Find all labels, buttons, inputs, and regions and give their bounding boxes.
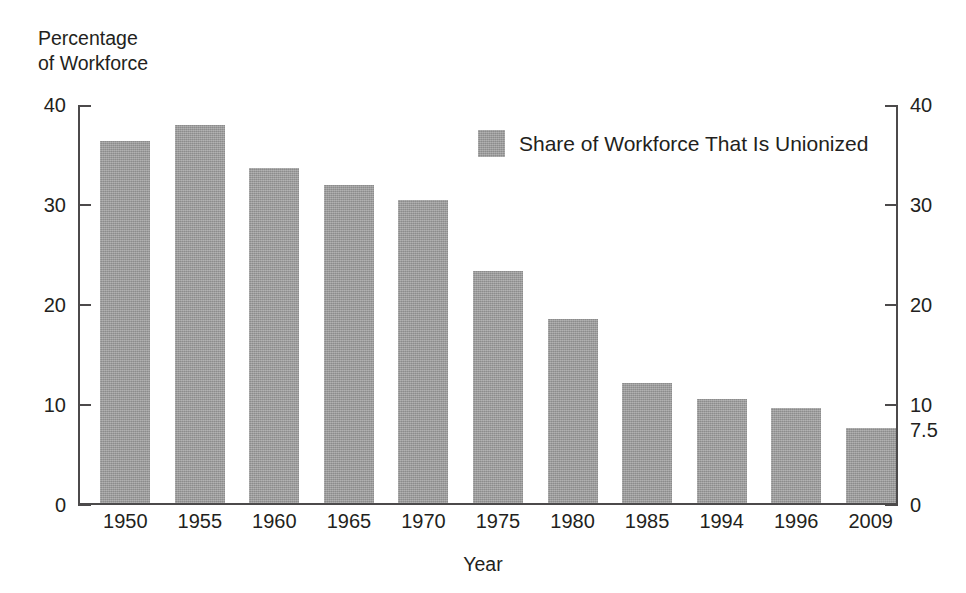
plot-area: 01020304007.5102030401950195519601965197…: [78, 105, 898, 505]
y-axis-title-line-2: of Workforce: [38, 51, 148, 76]
y-tick-label-right-20: 20: [910, 295, 932, 315]
y-axis-title-line-1: Percentage: [38, 26, 148, 51]
y-tick-label-left-0: 0: [55, 495, 66, 515]
x-tick-label-1980: 1980: [548, 511, 598, 531]
x-tick-label-1965: 1965: [324, 511, 374, 531]
y-tick-left-10: [78, 404, 91, 406]
y-tick-label-left-30: 30: [44, 195, 66, 215]
x-tick-label-1960: 1960: [249, 511, 299, 531]
x-tick-label-1955: 1955: [175, 511, 225, 531]
bar-1980: [548, 319, 598, 503]
y-tick-label-right-0: 0: [910, 495, 921, 515]
bar-1994: [697, 399, 747, 503]
x-tick-label-1970: 1970: [398, 511, 448, 531]
bar-1960: [249, 168, 299, 503]
y-tick-left-20: [78, 304, 91, 306]
y-tick-label-left-40: 40: [44, 95, 66, 115]
y-tick-right-20: [885, 304, 898, 306]
x-axis-title: Year: [0, 553, 966, 576]
bar-1996: [771, 408, 821, 503]
bar-1975: [473, 271, 523, 503]
bar-1970: [398, 200, 448, 503]
bar-1965: [324, 185, 374, 503]
y-tick-label-left-20: 20: [44, 295, 66, 315]
x-tick-label-1985: 1985: [622, 511, 672, 531]
y-tick-label-right-7.5: 7.5: [910, 420, 938, 440]
bar-1955: [175, 125, 225, 503]
x-tick-label-2009: 2009: [846, 511, 896, 531]
y-tick-label-right-40: 40: [910, 95, 932, 115]
y-tick-label-right-10: 10: [910, 395, 932, 415]
x-tick-label-1996: 1996: [771, 511, 821, 531]
y-tick-right-30: [885, 204, 898, 206]
y-axis-title: Percentage of Workforce: [38, 26, 148, 76]
chart-figure: Percentage of Workforce Share of Workfor…: [0, 0, 966, 593]
y-axis-right-top-cap: [885, 105, 898, 107]
y-tick-left-0: [78, 504, 91, 506]
y-axis-left-top-cap: [78, 105, 91, 107]
bar-2009: [846, 428, 896, 503]
y-tick-left-30: [78, 204, 91, 206]
y-tick-label-right-30: 30: [910, 195, 932, 215]
y-tick-right-10: [885, 404, 898, 406]
y-tick-right-0: [885, 504, 898, 506]
x-tick-label-1975: 1975: [473, 511, 523, 531]
x-axis-line: [78, 503, 898, 505]
bar-1985: [622, 383, 672, 503]
x-tick-label-1950: 1950: [100, 511, 150, 531]
bar-1950: [100, 141, 150, 503]
x-tick-label-1994: 1994: [697, 511, 747, 531]
y-tick-label-left-10: 10: [44, 395, 66, 415]
